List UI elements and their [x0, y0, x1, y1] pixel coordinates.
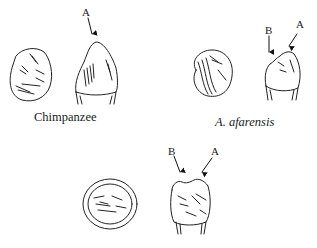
chimpanzee-arrow-label-a: A [82, 6, 90, 18]
human-lateral-view [171, 179, 210, 234]
afarensis-arrow-label-a: A [296, 18, 304, 30]
afarensis-occlusal-view [194, 50, 232, 96]
afarensis-arrow-a [289, 34, 297, 46]
chimpanzee-lateral-view [76, 42, 118, 104]
afarensis-lateral-view [265, 52, 300, 100]
chimpanzee-arrow-a [88, 18, 92, 34]
human-arrow-b [174, 156, 180, 172]
human-arrow-label-b: B [168, 145, 175, 157]
chimpanzee-occlusal-view [10, 49, 51, 101]
afarensis-arrow-label-b: B [265, 24, 272, 36]
human-arrow-a [202, 158, 212, 172]
caption-chimpanzee: Chimpanzee [34, 110, 96, 125]
caption-afarensis: A. afarensis [215, 115, 274, 130]
human-occlusal-view [83, 179, 137, 229]
human-arrow-label-a: A [211, 145, 219, 157]
